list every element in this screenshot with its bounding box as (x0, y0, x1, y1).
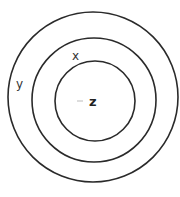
concentric-circles-diagram: y x z (0, 0, 180, 197)
label-x: x (72, 49, 79, 63)
label-y: y (16, 77, 23, 91)
label-z: z (89, 94, 97, 109)
